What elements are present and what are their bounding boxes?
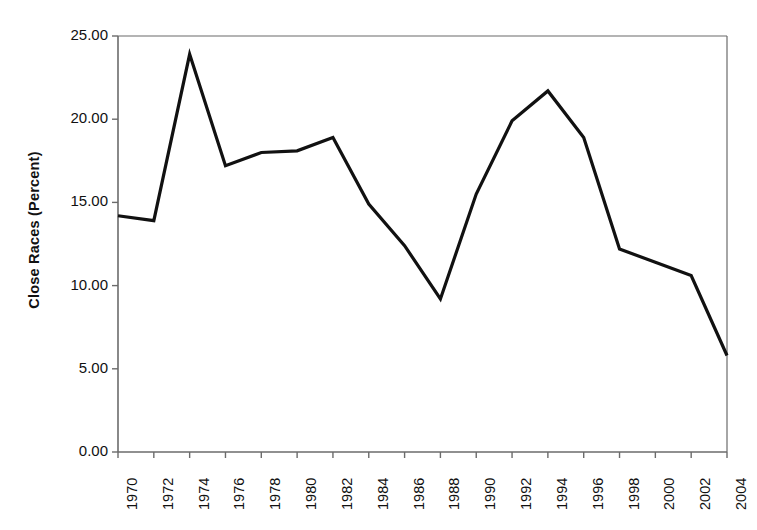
axis-lines — [118, 36, 727, 452]
data-series-line — [118, 54, 727, 355]
chart-container: Close Races (Percent) 0.005.0010.0015.00… — [0, 0, 757, 530]
plot-area — [0, 0, 757, 530]
